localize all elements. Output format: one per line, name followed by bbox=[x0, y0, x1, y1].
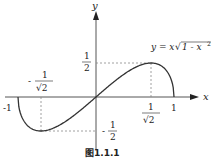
y-axis-arrow-icon bbox=[93, 11, 99, 20]
svg-text:√: √ bbox=[175, 42, 181, 52]
tick-x-neg-frac: - 1 √2 bbox=[28, 70, 53, 93]
svg-text:1 - x: 1 - x bbox=[182, 42, 202, 52]
svg-text:2: 2 bbox=[207, 40, 211, 47]
svg-text:1: 1 bbox=[84, 51, 90, 61]
svg-text:1: 1 bbox=[148, 102, 154, 112]
svg-text:√2: √2 bbox=[36, 83, 47, 93]
svg-text:-: - bbox=[28, 76, 31, 86]
function-label: y = x √ 1 - x 2 bbox=[150, 40, 211, 52]
function-diagram: y x y = x √ 1 - x 2 1 2 - 1 2 - 1 √2 1 √… bbox=[0, 0, 215, 160]
tick-x-neg-one: -1 bbox=[3, 103, 12, 113]
y-axis-label: y bbox=[91, 0, 98, 11]
svg-text:-: - bbox=[102, 126, 105, 136]
figure-caption: 图1.1.1 bbox=[85, 148, 120, 158]
svg-text:y = x: y = x bbox=[150, 42, 174, 52]
tick-x-one: 1 bbox=[171, 103, 177, 113]
svg-text:2: 2 bbox=[110, 132, 116, 142]
x-axis-arrow-icon bbox=[190, 94, 199, 100]
svg-text:1: 1 bbox=[110, 120, 116, 130]
svg-text:1: 1 bbox=[42, 70, 48, 80]
tick-y-half: 1 2 bbox=[82, 51, 91, 73]
x-axis-label: x bbox=[203, 91, 209, 102]
tick-x-pos-frac: 1 √2 bbox=[142, 102, 160, 125]
tick-y-neg-half: - 1 2 bbox=[102, 120, 117, 142]
svg-text:√2: √2 bbox=[143, 115, 154, 125]
svg-text:2: 2 bbox=[84, 63, 90, 73]
